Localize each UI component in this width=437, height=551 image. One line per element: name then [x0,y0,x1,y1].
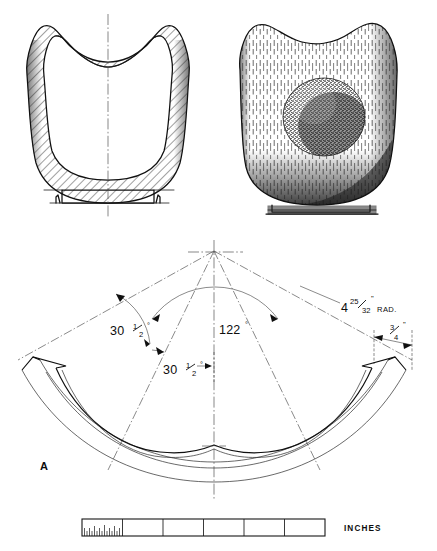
scale-bar-subdivisions [85,525,120,536]
radial-line-left-inner [108,251,214,470]
development-left-end-tab [22,357,66,370]
angle-arc-122-arrow-right [270,314,278,322]
angle-center-degree: ° [245,320,248,329]
angle-arc-left-inner-arrow [156,347,164,355]
angle-arc-122-arrow-left [152,314,160,322]
dimension-angle-center: 122 ° [219,320,248,337]
dimension-radius: 4 25 32 " RAD. [341,294,397,315]
drawing-sheet: 30 1 2 ° 30 1 2 ° 122 ° 4 25 32 " RAD. [0,0,437,551]
radius-numerator: 25 [350,297,358,306]
angle-arc-122 [152,287,278,319]
radius-whole: 4 [341,301,348,315]
angle-left-inner-degree: ° [200,360,203,369]
development-view [18,240,412,500]
development-right-end-tab [362,357,406,370]
radius-leader-line [300,286,340,303]
angle-left-inner-leader-arrow [205,363,212,369]
dimension-angle-left-inner: 30 1 2 ° [163,360,203,378]
end-width-inch-mark: " [403,320,406,329]
angle-left-inner-value: 30 [163,363,177,377]
part-letter-label: A [40,460,48,472]
dimension-end-width: 3 4 " [390,320,406,342]
radius-inch-mark: " [371,294,374,303]
section-view [22,14,194,218]
radius-denominator: 32 [362,306,370,315]
angle-left-inner-denominator: 2 [192,369,196,378]
radial-line-right-inner [214,251,320,470]
pictorial-view [236,20,402,214]
scale-bar: INCHES [82,519,382,536]
dimension-angle-left-outer: 30 1 2 ° [110,321,150,339]
radius-suffix: RAD. [377,305,397,314]
angle-arc-left-outer-arrow-top [116,294,125,302]
radial-line-left-outer [18,251,214,360]
angle-left-outer-value: 30 [110,324,124,338]
scale-bar-units-label: INCHES [344,524,382,533]
angle-arc-left-outer-arrow-bottom [144,339,150,347]
angle-left-outer-denominator: 2 [139,330,143,339]
angle-center-value: 122 [219,323,240,337]
angle-left-outer-degree: ° [147,321,150,330]
technical-drawing-canvas: 30 1 2 ° 30 1 2 ° 122 ° 4 25 32 " RAD. [0,0,437,551]
end-width-denominator: 4 [394,333,398,342]
